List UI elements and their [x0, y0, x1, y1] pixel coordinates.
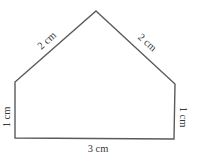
- label-left-side: 1 cm: [1, 107, 12, 128]
- pentagon-outline: [15, 11, 175, 139]
- label-top-right-side: 2 cm: [136, 31, 159, 53]
- label-right-side: 1 cm: [178, 107, 189, 128]
- pentagon-diagram: 2 cm 2 cm 1 cm 1 cm 3 cm: [0, 0, 198, 163]
- label-bottom-side: 3 cm: [88, 143, 109, 154]
